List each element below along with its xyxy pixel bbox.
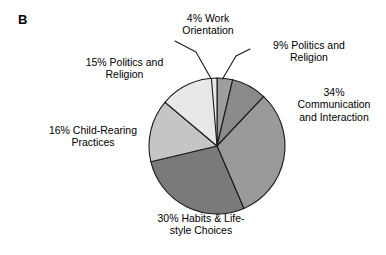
slice-label-work-orientation: 4% Work Orientation bbox=[150, 12, 266, 37]
slice-label-politics-religion-9: 9% Politics and Religion bbox=[243, 39, 375, 64]
pie-chart-figure: B 4% Work Orientation 9% Politics and Re… bbox=[0, 0, 386, 255]
slice-label-politics-religion-15: 15% Politics and Religion bbox=[58, 56, 191, 81]
slice-label-communication-interaction: 34% Communication and Interaction bbox=[282, 86, 386, 123]
slice-label-habits-lifestyle: 30% Habits & Life- style Choices bbox=[130, 212, 272, 237]
slice-label-child-rearing: 16% Child-Rearing Practices bbox=[22, 124, 164, 149]
